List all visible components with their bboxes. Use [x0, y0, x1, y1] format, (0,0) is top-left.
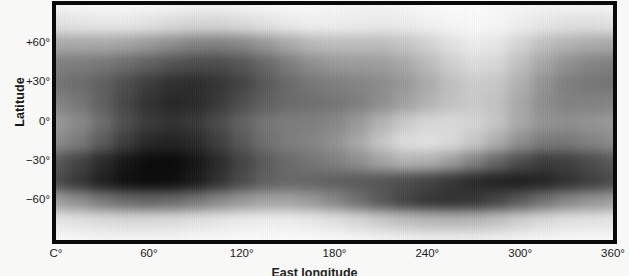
- x-tick-label: 240°: [397, 247, 457, 259]
- y-tick-label: −60°: [6, 193, 50, 205]
- x-tick-label: 180°: [305, 247, 365, 259]
- chart-figure: Latitude +60°+30°0°−30°−60° C°60°120°180…: [0, 0, 629, 276]
- plot-area: [52, 1, 617, 244]
- x-tick-label: C°: [26, 247, 86, 259]
- y-tick-label: +60°: [6, 36, 50, 48]
- y-tick-label: 0°: [6, 115, 50, 127]
- x-tick-label: 300°: [490, 247, 550, 259]
- x-axis-title: East longitude: [0, 266, 629, 276]
- x-tick-label: 120°: [212, 247, 272, 259]
- y-tick-label: −30°: [6, 154, 50, 166]
- y-axis-tick-labels: +60°+30°0°−30°−60°: [0, 0, 50, 276]
- x-tick-label: 60°: [119, 247, 179, 259]
- y-tick-label: +30°: [6, 75, 50, 87]
- x-tick-label: 360°: [583, 247, 629, 259]
- grayscale-map-canvas: [56, 5, 613, 240]
- x-axis-tick-labels: C°60°120°180°240°300°360°: [0, 247, 629, 265]
